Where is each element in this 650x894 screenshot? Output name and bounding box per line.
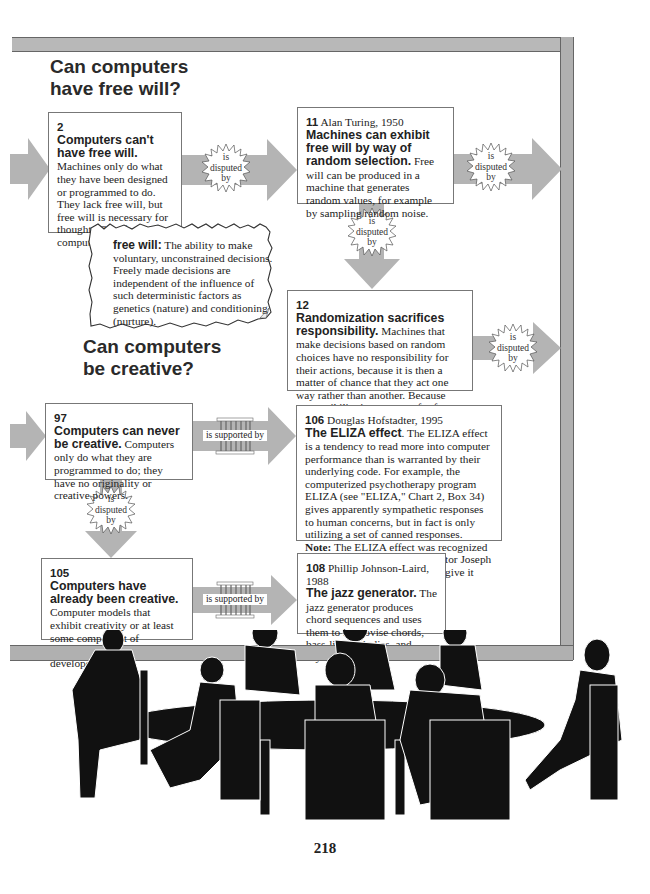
argument-box-108: 108 Phillip Johnson-Laird, 1988 The jazz… — [297, 553, 446, 634]
definition-text: free will: The ability to make voluntary… — [113, 239, 273, 327]
heading-line: Can computers — [83, 336, 221, 358]
box-title: Computers have already been creative. — [50, 579, 179, 606]
badge-text: disputed — [356, 227, 388, 238]
argument-box-105: 105 Computers have already been creative… — [41, 558, 193, 640]
box-body: . The ELIZA effect is a tendency to read… — [305, 427, 490, 541]
badge-text: is supported by — [203, 594, 267, 605]
box-title: The jazz generator. — [306, 586, 417, 600]
heading-line: have free will? — [50, 78, 188, 100]
supported-by-badge: is supported by — [203, 580, 267, 620]
section-heading-creative: Can computers be creative? — [83, 336, 221, 380]
box-author: Phillip Johnson-Laird, 1988 — [306, 562, 429, 587]
box-number: 108 — [306, 562, 325, 574]
badge-text: is — [510, 332, 516, 343]
badge-text: disputed — [210, 163, 242, 174]
argument-box-2: 2 Computers can't have free will. Machin… — [48, 112, 182, 233]
box-title: The ELIZA effect — [305, 426, 402, 440]
argument-box-12: 12 Randomization sacrifices responsibili… — [287, 290, 473, 391]
section-heading-free-will: Can computers have free will? — [50, 56, 188, 100]
entry-arrow-box-2 — [10, 138, 50, 200]
badge-text: by — [221, 173, 231, 184]
definition-body: The ability to make voluntary, unconstra… — [113, 239, 272, 327]
definition-note-free-will: free will: The ability to make voluntary… — [88, 222, 276, 332]
box-title: Computers can't have free will. — [57, 133, 154, 160]
definition-term: free will: — [113, 238, 162, 252]
heading-line: be creative? — [83, 358, 221, 380]
badge-text: disputed — [95, 505, 127, 516]
argument-box-106: 106 Douglas Hofstadter, 1995 The ELIZA e… — [296, 405, 502, 541]
disputed-by-badge: isdisputedby — [201, 143, 251, 193]
argument-box-97: 97 Computers can never be creative. Comp… — [45, 403, 193, 480]
disputed-by-badge: isdisputedby — [466, 142, 516, 192]
box-author: Alan Turing, 1950 — [320, 116, 403, 128]
box-title: Machines can exhibit free will by way of… — [306, 128, 430, 169]
disputed-by-badge: isdisputedby — [488, 323, 538, 373]
badge-text: is — [488, 151, 494, 162]
badge-text: by — [367, 237, 377, 248]
meeting-illustration — [0, 630, 650, 840]
box-number: 106 — [305, 414, 324, 426]
badge-text: by — [106, 515, 116, 526]
supported-by-badge: is supported by — [203, 416, 267, 456]
frame-top-bar — [12, 37, 572, 52]
badge-text: disputed — [497, 343, 529, 354]
heading-line: Can computers — [50, 56, 188, 78]
badge-text: is supported by — [203, 430, 267, 441]
badge-text: disputed — [475, 162, 507, 173]
frame-right-bar — [560, 37, 574, 660]
badge-text: is — [223, 152, 229, 163]
box-author: Douglas Hofstadter, 1995 — [327, 414, 443, 426]
box-number: 11 — [306, 116, 318, 128]
argument-box-11: 11 Alan Turing, 1950 Machines can exhibi… — [297, 107, 454, 204]
badge-text: by — [508, 353, 518, 364]
entry-arrow-box-97 — [10, 411, 46, 461]
badge-text: by — [486, 172, 496, 183]
page-number: 218 — [0, 840, 650, 857]
note-label: Note: — [305, 541, 331, 553]
